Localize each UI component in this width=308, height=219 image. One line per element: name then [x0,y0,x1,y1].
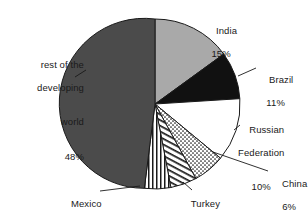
pie-label-rest-line3: world [6,116,84,128]
leader-line-mexico [100,186,140,191]
pie-label-rest-value: 48% [6,151,84,163]
pie-label-mexico-name: Mexico [71,198,102,209]
pie-label-india: India 15% [205,13,237,82]
pie-label-china-value: 6% [271,201,307,213]
pie-label-rest-line1: rest of the [41,59,84,70]
pie-label-india-value: 15% [205,48,237,60]
pie-label-russian-federation-name-line1: Russian [249,124,284,135]
pie-label-rest-line2: developing [6,82,84,94]
pie-label-brazil-value: 11% [258,97,293,109]
pie-label-china: China 6% [271,166,307,219]
pie-chart: India 15% Brazil 11% Russian Federation … [0,0,308,219]
pie-label-india-name: India [216,25,237,36]
pie-label-turkey: Turkey 5% [180,186,220,219]
pie-label-brazil-name: Brazil [269,74,293,85]
pie-label-china-name: China [282,178,307,189]
pie-label-russian-federation-name-line2: Federation [238,147,284,159]
pie-label-rest-of-developing-world: rest of the developing world 48% [6,47,84,185]
leader-line-brazil [238,68,256,76]
pie-label-turkey-name: Turkey [191,198,220,209]
pie-label-mexico: Mexico 5% [60,186,102,219]
